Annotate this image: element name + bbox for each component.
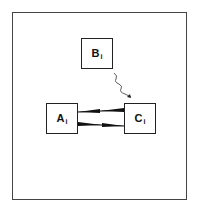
node-a: Ai	[46, 103, 78, 134]
arrowhead-b-to-c	[127, 94, 131, 98]
node-c-label: Ci	[135, 112, 146, 125]
node-c: Ci	[124, 103, 156, 134]
arrow-c-to-a	[78, 108, 124, 113]
node-b-label: Bi	[92, 47, 103, 60]
arrow-a-to-c	[78, 122, 124, 127]
node-a-label: Ai	[57, 112, 68, 125]
edges-layer	[0, 0, 200, 211]
wavy-edge-b-to-c	[114, 73, 131, 97]
node-b: Bi	[81, 38, 113, 69]
